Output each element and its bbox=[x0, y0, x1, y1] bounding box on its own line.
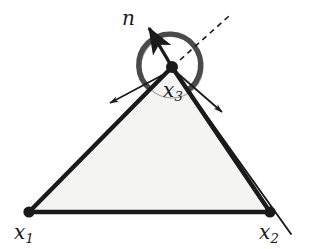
vertex-dot-x3 bbox=[166, 61, 178, 73]
vertex-label-x3-base: x bbox=[163, 78, 174, 102]
vertex-label-x1: x1 bbox=[14, 222, 34, 245]
vertex-label-x2: x2 bbox=[259, 222, 279, 245]
vertex-label-x3: x3 bbox=[163, 80, 183, 103]
vertex-label-x2-sub: 2 bbox=[270, 231, 279, 246]
vertex-dot-x1 bbox=[23, 206, 34, 217]
vertex-label-x1-base: x bbox=[14, 220, 25, 244]
vertex-label-x3-sub: 3 bbox=[174, 89, 183, 104]
figure-canvas: n x1 x2 x3 bbox=[0, 0, 320, 249]
vertex-dot-x2 bbox=[264, 206, 275, 217]
normal-label-base: n bbox=[122, 6, 135, 30]
vertex-label-x2-base: x bbox=[259, 220, 270, 244]
vertex-label-x1-sub: 1 bbox=[25, 231, 34, 246]
normal-label: n bbox=[122, 8, 135, 31]
triangle-normal-diagram bbox=[0, 0, 320, 249]
